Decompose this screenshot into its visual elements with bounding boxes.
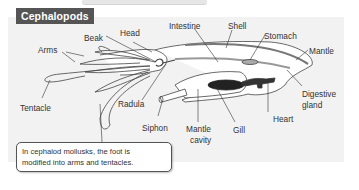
foot-callout: In cephalod mollusks, the foot is modifi… [16,142,172,172]
label-beak: Beak [84,34,103,43]
callout-line-1: In cephalod mollusks, the foot is [22,146,171,157]
diagram-title: Cephalopods [16,8,94,24]
label-digestive-gland-1: Digestive [302,90,336,99]
label-mantle-cavity-2: cavity [190,136,211,145]
label-head: Head [120,29,140,38]
label-tentacle: Tentacle [20,104,51,113]
label-mantle: Mantle [309,47,334,56]
label-stomach: Stomach [264,32,297,41]
label-siphon: Siphon [142,124,168,133]
label-radula: Radula [118,100,144,109]
callout-line-2: modified into arms and tentacles. [22,157,171,168]
label-arms: Arms [38,46,57,55]
label-intestine: Intestine [169,22,200,31]
label-heart: Heart [273,115,293,124]
label-gill: Gill [233,126,245,135]
label-shell: Shell [228,22,246,31]
label-mantle-cavity-1: Mantle [186,125,211,134]
label-digestive-gland-2: gland [302,101,322,110]
